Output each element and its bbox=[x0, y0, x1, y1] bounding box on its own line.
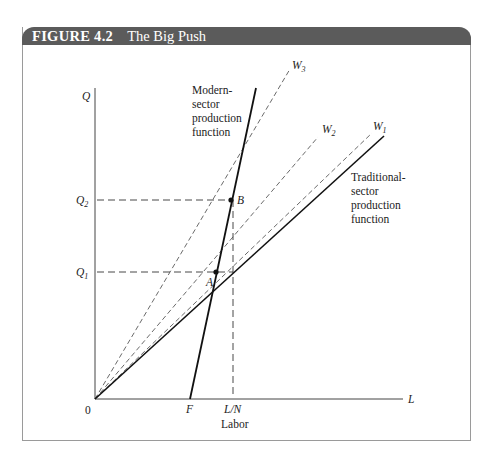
w2-line bbox=[95, 137, 318, 399]
traditional-production-line bbox=[95, 136, 384, 399]
w2-label: W2 bbox=[322, 123, 336, 138]
point-a-label: A bbox=[205, 276, 214, 288]
point-b-marker bbox=[228, 197, 233, 202]
big-push-chart: Q L 0 Q2 Q1 F L/N Labor A B W3 W2 W1 Mod… bbox=[0, 0, 495, 470]
q2-label: Q2 bbox=[76, 194, 88, 209]
q-axis-label: Q bbox=[82, 90, 91, 102]
q1-label: Q1 bbox=[76, 266, 88, 281]
ln-label: L/N bbox=[223, 403, 243, 415]
point-a-marker bbox=[213, 269, 218, 274]
l-axis-label: L bbox=[407, 393, 414, 405]
point-b-label: B bbox=[237, 194, 244, 206]
traditional-sector-label: Traditional- sector production function bbox=[351, 171, 408, 225]
w3-label: W3 bbox=[292, 59, 306, 74]
modern-sector-label: Modern- sector production function bbox=[192, 84, 245, 138]
w1-line bbox=[95, 133, 372, 399]
labor-label: Labor bbox=[221, 418, 249, 430]
w1-label: W1 bbox=[373, 120, 387, 135]
f-label: F bbox=[185, 403, 194, 415]
origin-label: 0 bbox=[85, 404, 91, 416]
